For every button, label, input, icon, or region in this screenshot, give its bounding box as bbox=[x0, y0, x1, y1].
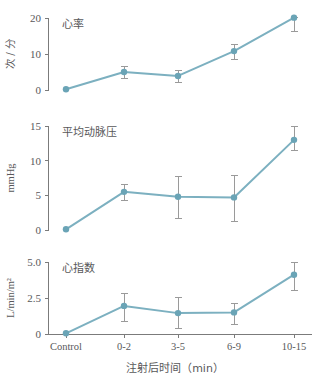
y-axis-title-map: mmHg bbox=[5, 163, 16, 193]
y-tick-label-10: 10 bbox=[30, 155, 42, 167]
y-tick-label-0: 0 bbox=[36, 328, 42, 340]
y-axis-heart-rate: 20 10 0 次 / 分 bbox=[4, 12, 49, 96]
y-tick-label-10: 10 bbox=[30, 48, 42, 60]
series-line-heart-rate bbox=[66, 18, 294, 90]
x-tick-label-0-2: 0-2 bbox=[117, 341, 131, 352]
panel-title-heart-rate: 心率 bbox=[62, 17, 84, 31]
panel-cardiac-index-svg: 5.0 2.5 0 L/min/m² bbox=[0, 248, 320, 348]
y-tick-label-5: 5 bbox=[36, 189, 42, 201]
error-bars-heart-rate bbox=[121, 18, 298, 82]
x-tick-label-10-15: 10-15 bbox=[282, 341, 307, 352]
y-tick-label-5p0: 5.0 bbox=[27, 256, 41, 268]
panel-mean-arterial-pressure: 15 10 5 0 mmHg bbox=[0, 108, 320, 248]
y-tick-label-0: 0 bbox=[36, 84, 42, 96]
x-axis-ticks bbox=[66, 334, 294, 338]
y-axis-map: 15 10 5 0 mmHg bbox=[5, 120, 49, 236]
y-tick-label-0: 0 bbox=[36, 224, 42, 236]
panel-map-svg: 15 10 5 0 mmHg bbox=[0, 108, 320, 248]
panel-title-map: 平均动脉压 bbox=[62, 125, 117, 139]
y-tick-label-20: 20 bbox=[30, 12, 42, 24]
x-tick-label-3-5: 3-5 bbox=[171, 341, 185, 352]
series-markers-cardiac-index bbox=[63, 272, 297, 337]
panel-title-cardiac-index: 心指数 bbox=[62, 261, 95, 275]
panel-heart-rate: 20 10 0 次 / 分 bbox=[0, 0, 320, 108]
y-tick-label-15: 15 bbox=[30, 120, 42, 132]
series-line-cardiac-index bbox=[66, 275, 294, 334]
error-bars-cardiac-index bbox=[121, 263, 298, 329]
y-axis-title-cardiac-index: L/min/m² bbox=[5, 278, 16, 318]
x-tick-label-6-9: 6-9 bbox=[227, 341, 241, 352]
x-axis-title: 注射后时间（min） bbox=[126, 361, 224, 375]
x-tick-label-control: Control bbox=[50, 341, 82, 352]
x-axis-block: Control 0-2 3-5 6-9 10-15 注射后时间（min） bbox=[0, 340, 320, 384]
figure-multipanel-chart: 20 10 0 次 / 分 bbox=[0, 0, 320, 384]
panel-heart-rate-svg: 20 10 0 次 / 分 bbox=[0, 0, 320, 108]
panel-cardiac-index: 5.0 2.5 0 L/min/m² bbox=[0, 248, 320, 348]
x-axis-svg: Control 0-2 3-5 6-9 10-15 注射后时间（min） bbox=[0, 340, 320, 384]
y-tick-label-2p5: 2.5 bbox=[27, 292, 41, 304]
y-axis-title-heart-rate: 次 / 分 bbox=[4, 38, 16, 69]
y-axis-cardiac-index: 5.0 2.5 0 L/min/m² bbox=[5, 256, 312, 340]
error-bars-map bbox=[121, 126, 298, 222]
series-line-map bbox=[66, 140, 294, 229]
